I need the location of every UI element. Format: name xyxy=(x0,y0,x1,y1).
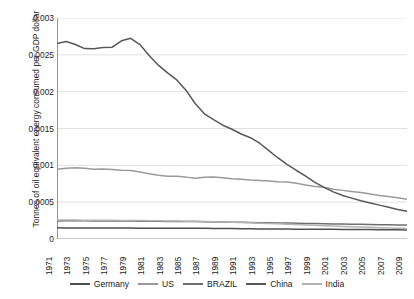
series-line-us xyxy=(57,168,407,200)
x-axis-tick-label: 1985 xyxy=(175,241,183,275)
legend-line-swatch-icon xyxy=(246,283,266,285)
x-axis-tick-label: 1993 xyxy=(249,241,257,275)
x-axis-tick-label: 1979 xyxy=(120,241,128,275)
y-axis-tick-label: 0.003 xyxy=(18,14,54,22)
x-axis-tick-label: 2003 xyxy=(341,241,349,275)
legend-item-label: US xyxy=(162,279,174,289)
x-axis-tick-label: 2001 xyxy=(322,241,330,275)
legend-item-india[interactable]: India xyxy=(302,279,345,289)
series-line-germany xyxy=(57,228,407,230)
y-axis-tick-label: 0.002 xyxy=(18,88,54,96)
x-axis-tick-label: 1983 xyxy=(157,241,165,275)
x-axis-tick-label: 2005 xyxy=(359,241,367,275)
y-axis-tick-labels: 00.00050.0010.00150.0020.00250.003 xyxy=(14,0,54,245)
legend-line-swatch-icon xyxy=(183,283,203,285)
legend-item-us[interactable]: US xyxy=(138,279,174,289)
series-line-china xyxy=(57,38,407,211)
x-axis-tick-label: 2007 xyxy=(378,241,386,275)
legend-line-swatch-icon xyxy=(302,283,322,285)
y-axis-tick-label: 0.0005 xyxy=(18,198,54,206)
legend-item-germany[interactable]: Germany xyxy=(70,279,129,289)
x-axis-tick-label: 1999 xyxy=(304,241,312,275)
chart-plot-svg xyxy=(57,18,407,239)
x-axis-tick-label: 1991 xyxy=(230,241,238,275)
x-axis-tick-labels: 1971197319751977197919811983198519871989… xyxy=(57,241,407,275)
y-axis-tick-label: 0.0025 xyxy=(18,51,54,59)
chart-container: Tonnes of oil equivalent energy consumed… xyxy=(0,0,414,299)
legend-line-swatch-icon xyxy=(138,283,158,285)
x-axis-tick-label: 1997 xyxy=(285,241,293,275)
legend-item-label: BRAZIL xyxy=(207,279,237,289)
x-axis-tick-label: 1981 xyxy=(138,241,146,275)
chart-legend: GermanyUSBRAZILChinaIndia xyxy=(0,276,414,292)
x-axis-tick-label: 1995 xyxy=(267,241,275,275)
x-axis-tick-label: 1987 xyxy=(193,241,201,275)
x-axis-tick-label: 1975 xyxy=(83,241,91,275)
legend-item-brazil[interactable]: BRAZIL xyxy=(183,279,237,289)
x-axis-tick-label: 1977 xyxy=(101,241,109,275)
x-axis-tick-label: 1971 xyxy=(46,241,54,275)
x-axis-tick-label: 1973 xyxy=(64,241,72,275)
x-axis-tick-label: 2009 xyxy=(396,241,404,275)
plot-area xyxy=(57,18,407,239)
y-axis-tick-label: 0.0015 xyxy=(18,125,54,133)
legend-item-label: Germany xyxy=(94,279,129,289)
legend-item-china[interactable]: China xyxy=(246,279,292,289)
legend-item-label: China xyxy=(270,279,292,289)
legend-line-swatch-icon xyxy=(70,283,90,285)
legend-item-label: India xyxy=(326,279,345,289)
x-axis-tick-label: 1989 xyxy=(212,241,220,275)
y-axis-tick-label: 0.001 xyxy=(18,161,54,169)
